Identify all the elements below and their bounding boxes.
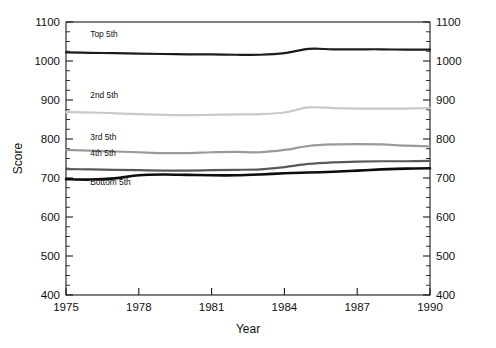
y-tick-label-right-400: 400 xyxy=(436,289,455,301)
series-label-bottom-5th: Bottom 5th xyxy=(90,177,131,187)
plot-area-border xyxy=(66,22,430,295)
chart-figure: 40050060070080090010001100 4005006007008… xyxy=(0,0,496,348)
y-tick-label-left-900: 900 xyxy=(41,94,60,106)
series-label-2nd-5th: 2nd 5th xyxy=(90,90,118,100)
series-label-4th-5th: 4th 5th xyxy=(90,148,116,158)
y-tick-label-left-800: 800 xyxy=(41,133,60,145)
y-tick-label-left-1000: 1000 xyxy=(34,55,60,67)
y-tick-label-right-900: 900 xyxy=(436,94,455,106)
x-axis-title: Year xyxy=(236,322,260,336)
x-tick-label-1987: 1987 xyxy=(344,301,370,313)
y-tick-label-left-500: 500 xyxy=(41,250,60,262)
y-tick-label-right-800: 800 xyxy=(436,133,455,145)
y-tick-label-right-1100: 1100 xyxy=(436,16,461,28)
y-tick-label-left-400: 400 xyxy=(41,289,60,301)
series-label-3rd-5th: 3rd 5th xyxy=(90,132,116,142)
x-tick-label-1975: 1975 xyxy=(53,301,79,313)
x-tick-label-1978: 1978 xyxy=(126,301,152,313)
y-tick-label-left-1100: 1100 xyxy=(35,16,60,28)
plot-frame xyxy=(66,22,430,295)
y-tick-label-right-700: 700 xyxy=(436,172,455,184)
x-tick-label-1984: 1984 xyxy=(272,301,298,313)
series-label-top-5th: Top 5th xyxy=(90,29,118,39)
x-tick-label-1981: 1981 xyxy=(199,301,225,313)
y-tick-label-right-600: 600 xyxy=(436,211,455,223)
y-axis-title: Score xyxy=(11,143,25,175)
line-chart: 40050060070080090010001100 4005006007008… xyxy=(0,0,496,348)
x-tick-label-1990: 1990 xyxy=(417,301,443,313)
y-tick-label-left-600: 600 xyxy=(41,211,60,223)
y-tick-label-right-500: 500 xyxy=(436,250,455,262)
y-tick-label-right-1000: 1000 xyxy=(436,55,462,67)
y-tick-label-left-700: 700 xyxy=(41,172,60,184)
